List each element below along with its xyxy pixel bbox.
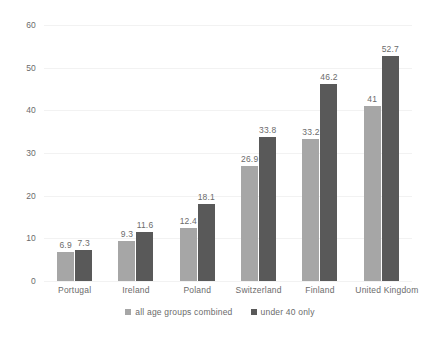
bar-rect [364, 106, 381, 281]
bar-groups: 6.97.39.311.612.418.126.933.833.246.2415… [44, 25, 412, 281]
x-axis-label-switzerland: Switzerland [233, 285, 285, 301]
bar-group-finland: 33.246.2 [302, 25, 337, 281]
x-axis-label-ireland: Ireland [110, 285, 162, 301]
bar-rect [118, 241, 135, 281]
bar-switzerland-series-1[interactable]: 26.9 [241, 25, 258, 281]
bar-value-label: 46.2 [320, 72, 337, 82]
x-axis-label-united-kingdom: United Kingdom [355, 285, 407, 301]
bar-ireland-series-2[interactable]: 11.6 [136, 25, 153, 281]
bar-group-switzerland: 26.933.8 [241, 25, 276, 281]
bar-rect [302, 139, 319, 281]
bar-chart: 6.97.39.311.612.418.126.933.833.246.2415… [0, 0, 440, 339]
bar-rect [382, 56, 399, 281]
bar-rect [57, 252, 74, 281]
y-axis-tick-50: 50 [8, 63, 36, 73]
bar-rect [180, 228, 197, 281]
bar-portugal-series-2[interactable]: 7.3 [75, 25, 92, 281]
x-axis-label-poland: Poland [171, 285, 223, 301]
bar-group-ireland: 9.311.6 [118, 25, 153, 281]
bar-rect [136, 232, 153, 281]
bar-poland-series-2[interactable]: 18.1 [198, 25, 215, 281]
x-axis-category-labels: PortugalIrelandPolandSwitzerlandFinlandU… [44, 285, 412, 301]
bar-ireland-series-1[interactable]: 9.3 [118, 25, 135, 281]
bar-switzerland-series-2[interactable]: 33.8 [259, 25, 276, 281]
legend-label: under 40 only [261, 307, 315, 317]
bar-rect [75, 250, 92, 281]
chart-legend: all age groups combinedunder 40 only [0, 307, 440, 317]
legend-item-1[interactable]: all age groups combined [125, 307, 232, 317]
bar-value-label: 33.2 [302, 127, 319, 137]
bar-rect [198, 204, 215, 281]
bar-finland-series-1[interactable]: 33.2 [302, 25, 319, 281]
bar-rect [259, 137, 276, 281]
bar-united-kingdom-series-2[interactable]: 52.7 [382, 25, 399, 281]
gridline-0 [44, 281, 412, 282]
plot-area: 6.97.39.311.612.418.126.933.833.246.2415… [44, 25, 412, 281]
bar-value-label: 11.6 [137, 220, 154, 230]
bar-value-label: 41 [367, 94, 377, 104]
bar-rect [320, 84, 337, 281]
y-axis-tick-10: 10 [8, 233, 36, 243]
y-axis-tick-0: 0 [8, 276, 36, 286]
bar-value-label: 9.3 [121, 229, 133, 239]
bar-united-kingdom-series-1[interactable]: 41 [364, 25, 381, 281]
y-axis-tick-60: 60 [8, 20, 36, 30]
bar-value-label: 52.7 [382, 44, 399, 54]
bar-group-united-kingdom: 4152.7 [364, 25, 399, 281]
bar-group-portugal: 6.97.3 [57, 25, 92, 281]
y-axis-tick-30: 30 [8, 148, 36, 158]
legend-swatch-icon [125, 309, 131, 315]
bar-group-poland: 12.418.1 [180, 25, 215, 281]
bar-value-label: 18.1 [198, 192, 215, 202]
bar-finland-series-2[interactable]: 46.2 [320, 25, 337, 281]
legend-label: all age groups combined [135, 307, 232, 317]
x-axis-label-finland: Finland [294, 285, 346, 301]
y-axis-tick-40: 40 [8, 105, 36, 115]
legend-item-2[interactable]: under 40 only [251, 307, 315, 317]
bar-poland-series-1[interactable]: 12.4 [180, 25, 197, 281]
bar-portugal-series-1[interactable]: 6.9 [57, 25, 74, 281]
bar-rect [241, 166, 258, 281]
bar-value-label: 26.9 [241, 154, 258, 164]
legend-swatch-icon [251, 309, 257, 315]
bar-value-label: 7.3 [77, 238, 89, 248]
x-axis-label-portugal: Portugal [49, 285, 101, 301]
bar-value-label: 12.4 [180, 216, 197, 226]
bar-value-label: 33.8 [259, 125, 276, 135]
bar-value-label: 6.9 [59, 240, 71, 250]
y-axis-tick-20: 20 [8, 191, 36, 201]
